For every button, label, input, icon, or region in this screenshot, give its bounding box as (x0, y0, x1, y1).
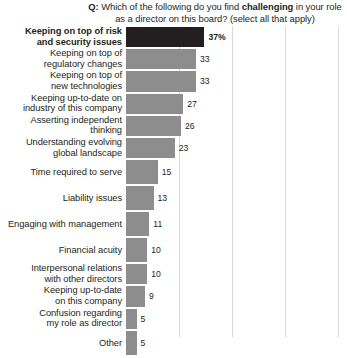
bar-row: Other5 (0, 330, 347, 356)
bar-row: Confusion regardingmy role as director5 (0, 308, 347, 330)
bar (126, 309, 137, 329)
bar-row: Time required to serve15 (0, 159, 347, 185)
bar-value-label: 11 (153, 219, 162, 229)
bar-row: Engaging with management11 (0, 211, 347, 237)
bar-row: Liability issues13 (0, 185, 347, 211)
bar-category-label: Interpersonal relationswith other direct… (2, 264, 126, 285)
bar-category-label: Keeping on top ofnew technologies (2, 71, 126, 92)
bar-track: 5 (126, 331, 347, 355)
bar-category-label: Keeping on top of riskand security issue… (2, 27, 126, 48)
bar-value-label: 5 (141, 338, 146, 348)
bar (126, 186, 154, 210)
plot-area: Keeping on top of riskand security issue… (0, 26, 347, 344)
bar-category-label: Liability issues (2, 193, 126, 204)
bar-rows: Keeping on top of riskand security issue… (0, 26, 347, 356)
bar-value-label: 5 (141, 314, 146, 324)
bar-track: 10 (126, 238, 347, 262)
bar (126, 27, 204, 47)
bar-row: Understanding evolvingglobal landscape23 (0, 137, 347, 159)
bar-category-label: Time required to serve (2, 167, 126, 178)
bar (126, 138, 175, 158)
bar-value-label: 9 (149, 291, 154, 301)
bar-value-label: 10 (151, 245, 160, 255)
bar-category-label: Keeping up-to-dateon this company (2, 286, 126, 307)
bar-value-label: 26 (185, 121, 194, 131)
question-prefix: Q: (88, 1, 98, 12)
bar (126, 212, 149, 236)
bar-value-label: 10 (151, 269, 160, 279)
bar (126, 331, 137, 355)
bar-category-label: Confusion regardingmy role as director (2, 308, 126, 329)
bar (126, 49, 196, 69)
bar-value-label: 33 (200, 76, 209, 86)
bar (126, 71, 196, 91)
bar-row: Keeping on top ofnew technologies33 (0, 70, 347, 92)
bar (126, 286, 145, 306)
chart-title: Q: Which of the following do you find ch… (86, 1, 344, 24)
bar (126, 160, 158, 184)
bar-row: Financial acuity10 (0, 237, 347, 263)
title-emphasis: challenging (242, 1, 294, 12)
bar (126, 264, 147, 284)
bar-track: 15 (126, 160, 347, 184)
bar-track: 33 (126, 49, 347, 69)
bar-track: 37% (126, 27, 347, 47)
bar (126, 94, 183, 114)
bar-value-label: 23 (179, 143, 188, 153)
bar-chart: Q: Which of the following do you find ch… (0, 0, 347, 358)
bar-track: 23 (126, 138, 347, 158)
bar-track: 10 (126, 264, 347, 284)
bar-row: Keeping up-to-date onindustry of this co… (0, 93, 347, 115)
bar-value-label: 37% (208, 32, 225, 42)
bar-row: Asserting independentthinking26 (0, 115, 347, 137)
bar-category-label: Asserting independentthinking (2, 115, 126, 136)
bar-track: 5 (126, 309, 347, 329)
bar-value-label: 27 (187, 99, 196, 109)
bar-track: 26 (126, 116, 347, 136)
bar-track: 13 (126, 186, 347, 210)
bar-track: 33 (126, 71, 347, 91)
bar-category-label: Understanding evolvingglobal landscape (2, 137, 126, 158)
bar-value-label: 13 (158, 193, 167, 203)
bar (126, 116, 181, 136)
bar-row: Keeping up-to-dateon this company9 (0, 285, 347, 307)
bar-category-label: Keeping on top ofregulatory changes (2, 49, 126, 70)
bar-category-label: Financial acuity (2, 245, 126, 256)
bar-row: Keeping on top ofregulatory changes33 (0, 48, 347, 70)
bar-track: 11 (126, 212, 347, 236)
bar (126, 238, 147, 262)
title-text-before: Which of the following do you find (99, 1, 242, 12)
bar-category-label: Other (2, 337, 126, 348)
bar-row: Keeping on top of riskand security issue… (0, 26, 347, 48)
bar-category-label: Keeping up-to-date onindustry of this co… (2, 93, 126, 114)
bar-row: Interpersonal relationswith other direct… (0, 263, 347, 285)
bar-value-label: 15 (162, 167, 171, 177)
bar-value-label: 33 (200, 54, 209, 64)
bar-category-label: Engaging with management (2, 219, 126, 230)
bar-track: 27 (126, 94, 347, 114)
bar-track: 9 (126, 286, 347, 306)
